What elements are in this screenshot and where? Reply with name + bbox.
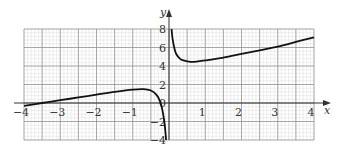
- y-tick-label: −4: [150, 134, 166, 147]
- function-graph: −4−3−2−1123486420−2−4 x y: [0, 0, 343, 153]
- y-tick-label: 6: [159, 42, 166, 55]
- x-tick-label: 2: [235, 106, 242, 119]
- x-tick-label: −4: [13, 106, 29, 119]
- x-tick-label: 4: [308, 106, 315, 119]
- x-tick-label: 1: [199, 106, 206, 119]
- function-curve: [172, 29, 314, 62]
- y-axis-label: y: [159, 6, 167, 19]
- y-tick-label: 4: [159, 60, 166, 73]
- y-tick-label: 2: [159, 79, 166, 92]
- x-tick-label: −1: [122, 106, 138, 119]
- x-tick-label: 3: [271, 106, 278, 119]
- tick-labels: −4−3−2−1123486420−2−4: [13, 23, 315, 147]
- x-tick-label: −2: [85, 106, 101, 119]
- y-tick-label: 8: [159, 23, 166, 36]
- x-tick-label: −3: [49, 106, 65, 119]
- x-axis-label: x: [324, 104, 331, 117]
